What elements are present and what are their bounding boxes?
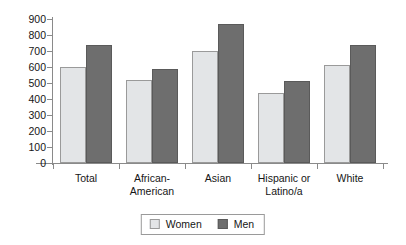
y-axis-tick-mark [47, 35, 52, 36]
x-axis-category-label: Hispanic orLatino/a [251, 172, 317, 197]
y-axis-tick-label: 400 [28, 94, 46, 105]
y-axis-tick-mark [47, 99, 52, 100]
bar-group [185, 19, 251, 163]
chart-legend: Women Men [141, 214, 265, 235]
y-axis-tick-label: 700 [28, 46, 46, 57]
bar-group [317, 19, 383, 163]
y-axis-tick-label: 0 [40, 158, 46, 169]
y-axis-tick-mark [47, 19, 52, 20]
bar-women [126, 80, 152, 163]
y-axis-tick-label: 200 [28, 126, 46, 137]
bar-men [350, 45, 376, 163]
y-axis-tick-mark [47, 147, 52, 148]
bar-men [218, 24, 244, 163]
x-axis-category-label: Total [53, 172, 119, 185]
y-axis-tick-label: 100 [28, 142, 46, 153]
y-axis-tick-labels: 0100200300400500600700800900 [0, 0, 46, 245]
x-axis-category-label: African-American [119, 172, 185, 197]
x-axis-tick-mark [251, 164, 252, 169]
y-axis-tick-mark [47, 115, 52, 116]
bar-men [284, 81, 310, 163]
bar-chart: 0100200300400500600700800900 Women Men T… [0, 0, 406, 245]
y-axis-tick-mark [47, 83, 52, 84]
bar-men [86, 45, 112, 163]
x-axis-category-label: Asian [185, 172, 251, 185]
legend-label-men: Men [234, 219, 254, 230]
bar-group [251, 19, 317, 163]
y-axis-tick-label: 300 [28, 110, 46, 121]
x-axis-tick-mark [383, 164, 384, 169]
x-axis-category-label: White [317, 172, 383, 185]
bar-group [53, 19, 119, 163]
y-axis-tick-mark [47, 131, 52, 132]
y-axis-tick-mark [47, 163, 52, 164]
legend-item-men: Men [218, 219, 254, 230]
x-axis-tick-mark [185, 164, 186, 169]
y-axis-tick-label: 800 [28, 30, 46, 41]
legend-swatch-women-icon [150, 219, 160, 229]
legend-label-women: Women [166, 219, 202, 230]
x-axis-tick-mark [317, 164, 318, 169]
x-axis-tick-mark [53, 164, 54, 169]
x-axis-line [36, 163, 388, 164]
y-axis-tick-mark [47, 51, 52, 52]
bar-women [324, 65, 350, 163]
legend-swatch-men-icon [218, 219, 228, 229]
y-axis-tick-label: 500 [28, 78, 46, 89]
x-axis-tick-mark [119, 164, 120, 169]
bar-women [192, 51, 218, 163]
bar-women [258, 93, 284, 163]
bar-women [60, 67, 86, 163]
y-axis-tick-mark [47, 67, 52, 68]
bar-group [119, 19, 185, 163]
legend-item-women: Women [150, 219, 202, 230]
y-axis-tick-label: 600 [28, 62, 46, 73]
y-axis-tick-label: 900 [28, 14, 46, 25]
bar-men [152, 69, 178, 163]
plot-area [53, 19, 383, 163]
